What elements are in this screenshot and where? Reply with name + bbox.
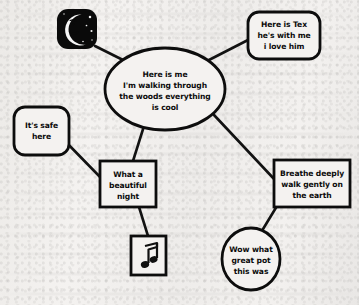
tex-line-1: Here is Tex bbox=[261, 20, 307, 29]
pot-line-1: Wow what bbox=[229, 245, 273, 254]
breathe-line-3: the earth bbox=[293, 191, 332, 200]
breathe-line-1: Breathe deeply bbox=[280, 169, 344, 178]
node-pot[interactable]: Wow what great pot this was bbox=[222, 228, 280, 290]
edge-center-to-night bbox=[133, 126, 144, 161]
breathe-line-2: walk gently on bbox=[281, 180, 342, 189]
center-line-2: I'm walking through bbox=[123, 81, 207, 90]
safe-line-2: here bbox=[32, 132, 51, 141]
tex-line-2: he's with me bbox=[257, 31, 310, 40]
node-moon-tile[interactable] bbox=[57, 9, 97, 49]
node-breathe[interactable]: Breathe deeply walk gently on the earth bbox=[274, 160, 350, 207]
night-line-1: What a bbox=[113, 170, 143, 179]
safe-line-1: It's safe bbox=[25, 121, 58, 130]
edge-center-to-tex bbox=[207, 40, 248, 61]
tex-line-3: i love him bbox=[264, 42, 305, 51]
center-line-1: Here is me bbox=[143, 70, 188, 79]
node-tex[interactable]: Here is Tex he's with me i love him bbox=[248, 12, 320, 59]
edge-night-to-music bbox=[139, 207, 148, 236]
node-safe[interactable]: It's safe here bbox=[14, 107, 69, 155]
diagram-canvas: Here is me I'm walking through the woods… bbox=[0, 0, 359, 305]
pot-line-2: great pot bbox=[231, 256, 271, 265]
safe-box-shape bbox=[14, 107, 69, 155]
node-center[interactable]: Here is me I'm walking through the woods… bbox=[105, 48, 225, 130]
node-music-tile[interactable] bbox=[131, 236, 166, 275]
node-night[interactable]: What a beautiful night bbox=[100, 161, 156, 207]
center-line-3: the woods everything bbox=[119, 92, 210, 101]
mind-map-diagram: Here is me I'm walking through the woods… bbox=[0, 0, 359, 305]
center-line-4: is cool bbox=[152, 103, 179, 112]
pot-line-3: this was bbox=[234, 267, 269, 276]
edge-center-to-breathe bbox=[214, 115, 275, 180]
night-line-3: night bbox=[117, 192, 139, 201]
night-line-2: beautiful bbox=[109, 181, 147, 190]
